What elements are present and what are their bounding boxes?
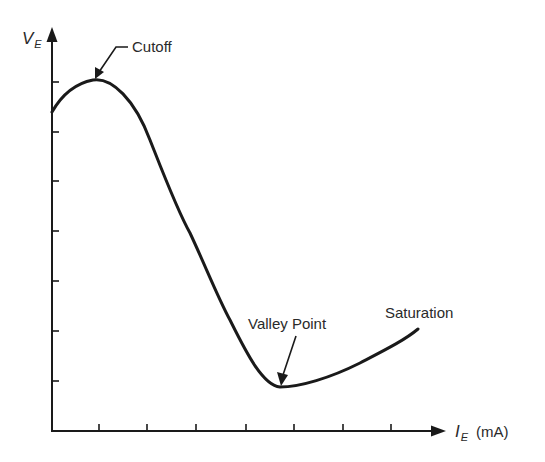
x-axis-unit: (mA)	[476, 423, 509, 440]
x-axis-ticks	[99, 424, 391, 431]
cutoff-arrow-icon	[95, 67, 104, 79]
x-axis	[51, 424, 446, 437]
annotation-cutoff: Cutoff	[132, 39, 172, 54]
annotation-valley-point: Valley Point	[248, 316, 326, 331]
annotation-saturation: Saturation	[385, 305, 453, 320]
y-axis	[47, 27, 60, 432]
y-axis-symbol: V	[22, 29, 33, 48]
y-axis-arrow-icon	[47, 27, 58, 42]
y-axis-ticks	[52, 82, 59, 381]
chart-canvas	[0, 0, 545, 462]
valley-leader	[277, 336, 296, 386]
y-axis-subscript: E	[34, 38, 41, 50]
x-axis-symbol: I	[455, 422, 460, 441]
ve-ie-curve	[52, 80, 418, 387]
cutoff-leader	[95, 47, 128, 79]
valley-arrow-icon	[277, 372, 288, 386]
y-axis-label: VE	[22, 30, 42, 50]
x-axis-label: IE(mA)	[455, 423, 509, 443]
x-axis-subscript: E	[461, 431, 468, 443]
x-axis-arrow-icon	[431, 426, 446, 437]
